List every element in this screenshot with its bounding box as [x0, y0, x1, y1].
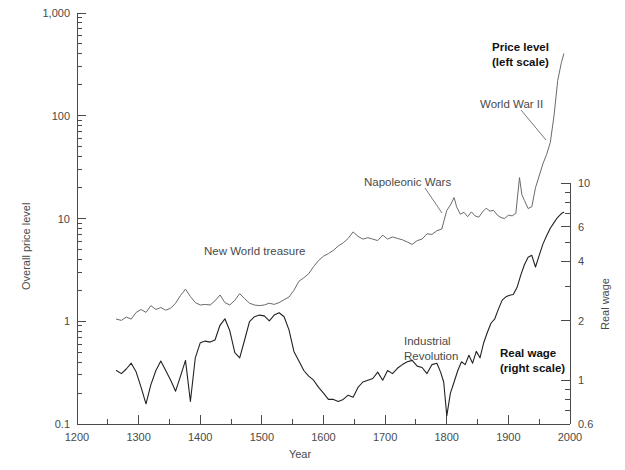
x-tick-label: 1200 — [65, 431, 89, 443]
annotation-napoleonic-wars: Napoleonic Wars — [364, 176, 451, 188]
leader-line-world-war-ii — [521, 110, 546, 140]
y-tick-label-right: 6 — [578, 221, 584, 233]
leader-line-napoleonic-wars — [425, 188, 442, 213]
y-axis-right-ticks — [561, 183, 570, 424]
y-tick-label-right: 10 — [578, 177, 590, 189]
y-tick-label-left: 10 — [58, 213, 70, 225]
x-tick-label: 1500 — [250, 431, 274, 443]
x-tick-label: 1800 — [435, 431, 459, 443]
y-tick-label-right: 4 — [578, 255, 584, 267]
annotation-industrial-revolution-line2: Revolution — [404, 350, 458, 362]
x-tick-label: 1700 — [373, 431, 397, 443]
y-tick-label-right: 2 — [578, 315, 584, 327]
y-axis-right-tick-labels: 1064210.6 — [578, 177, 593, 430]
x-tick-label: 1400 — [188, 431, 212, 443]
annotation-real-wage-line1: Real wage — [500, 347, 556, 359]
annotations-group: Price level (left scale) World War II Na… — [204, 41, 565, 374]
series-line-price-level — [116, 54, 563, 321]
annotation-price-level-line1: Price level — [492, 41, 549, 53]
y-axis-right-title: Real wage — [599, 278, 611, 330]
y-tick-label-right: 0.6 — [578, 418, 593, 430]
x-tick-label: 1600 — [311, 431, 335, 443]
y-tick-label-left: 100 — [52, 110, 70, 122]
annotation-world-war-ii: World War II — [480, 98, 543, 110]
y-tick-label-right: 1 — [578, 374, 584, 386]
annotation-price-level-line2: (left scale) — [492, 56, 549, 68]
x-axis-title: Year — [289, 448, 312, 460]
annotation-new-world-treasure: New World treasure — [204, 245, 305, 257]
series-line-real-wage — [116, 212, 563, 415]
y-axis-left-title: Overall price level — [20, 203, 32, 290]
axes-group — [77, 13, 570, 424]
x-axis-ticks — [77, 415, 570, 424]
x-axis-tick-labels: 120013001400150016001700180019002000 — [65, 431, 582, 443]
y-axis-left-tick-labels: 1,0001001010.1 — [42, 7, 70, 430]
x-tick-label: 1900 — [496, 431, 520, 443]
y-tick-label-left: 1 — [64, 315, 70, 327]
annotation-industrial-revolution-line1: Industrial — [404, 335, 451, 347]
price-level-real-wage-chart: 1,0001001010.1 1064210.6 120013001400150… — [0, 0, 625, 470]
annotation-leader-lines — [425, 110, 546, 213]
chart-svg: 1,0001001010.1 1064210.6 120013001400150… — [0, 0, 625, 470]
x-tick-label: 1300 — [126, 431, 150, 443]
y-axis-left-ticks — [77, 13, 86, 424]
annotation-real-wage-line2: (right scale) — [500, 362, 565, 374]
y-tick-label-left: 1,000 — [42, 7, 70, 19]
y-tick-label-left: 0.1 — [55, 418, 70, 430]
x-tick-label: 2000 — [558, 431, 582, 443]
